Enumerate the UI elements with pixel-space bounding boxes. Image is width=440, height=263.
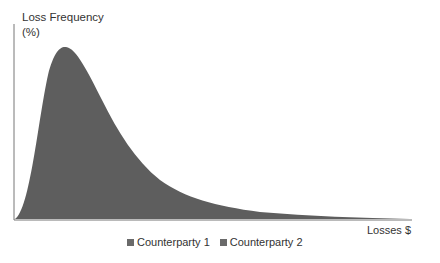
legend-swatch-icon	[127, 239, 134, 246]
loss-distribution-area	[15, 47, 410, 219]
legend-item-counterparty-2: Counterparty 2	[220, 236, 303, 248]
legend-item-counterparty-1: Counterparty 1	[127, 236, 210, 248]
legend-swatch-icon	[220, 239, 227, 246]
x-axis-label: Losses $	[367, 224, 411, 236]
y-axis-label: Loss Frequency (%)	[22, 10, 104, 40]
legend: Counterparty 1 Counterparty 2	[127, 236, 303, 248]
